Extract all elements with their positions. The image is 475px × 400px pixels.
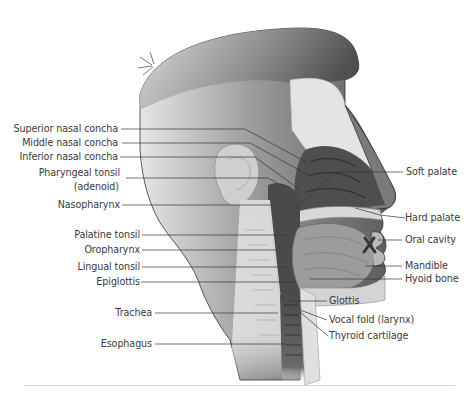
label-superior-nasal-concha: Superior nasal concha	[13, 123, 118, 134]
label-hard-palate: Hard palate	[405, 212, 460, 223]
label-pharyngeal-tonsil: Pharyngeal tonsil	[39, 167, 120, 178]
label-pharyngeal-tonsil-sub: (adenoid)	[74, 181, 119, 192]
label-trachea: Trachea	[115, 307, 152, 318]
label-vocal-fold: Vocal fold (larynx)	[329, 314, 414, 325]
label-oropharynx: Oropharynx	[84, 244, 140, 255]
label-hyoid-bone: Hyoid bone	[405, 273, 459, 284]
label-oral-cavity: Oral cavity	[405, 234, 456, 245]
label-inferior-nasal-concha: Inferior nasal concha	[19, 151, 118, 162]
label-mandible: Mandible	[405, 260, 448, 271]
label-middle-nasal-concha: Middle nasal concha	[22, 137, 118, 148]
anatomy-diagram: Superior nasal concha Middle nasal conch…	[0, 0, 475, 400]
label-glottis: Glottis	[329, 295, 359, 306]
label-epiglottis: Epiglottis	[96, 276, 140, 287]
label-thyroid-cartilage: Thyroid cartilage	[329, 330, 408, 341]
label-nasopharynx: Nasopharynx	[58, 199, 120, 210]
tongue	[292, 223, 374, 290]
label-soft-palate: Soft palate	[406, 166, 457, 177]
label-lingual-tonsil: Lingual tonsil	[78, 261, 141, 272]
bottom-divider	[24, 385, 455, 386]
label-palatine-tonsil: Palatine tonsil	[74, 229, 140, 240]
hair-tuft	[138, 52, 154, 75]
label-esophagus: Esophagus	[101, 338, 152, 349]
